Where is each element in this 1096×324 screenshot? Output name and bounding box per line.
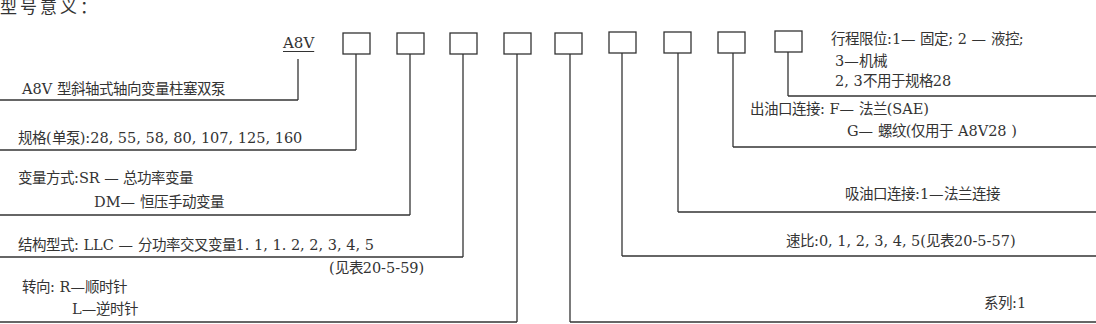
label-structure-ref: (见表20-5-59) xyxy=(329,259,424,277)
connector-lines xyxy=(0,0,1096,324)
code-box-6 xyxy=(609,32,636,53)
label-control-dm: DM— 恒压手动变量 xyxy=(94,193,224,211)
label-outlet-g: G— 螺纹(仅用于 A8V28 ) xyxy=(847,122,1017,140)
label-control-sr: 变量方式:SR — 总功率变量 xyxy=(18,169,193,187)
label-rotation-r: 转向: R—顺时针 xyxy=(22,278,127,296)
code-box-9 xyxy=(775,31,802,52)
code-box-4 xyxy=(504,33,531,54)
label-pump-type: A8V 型斜轴式轴向变量柱塞双泵 xyxy=(22,80,225,98)
label-stroke-limit-3: 3—机械 xyxy=(835,52,887,70)
code-box-8 xyxy=(718,32,745,53)
code-box-5 xyxy=(555,33,582,54)
label-series: 系列:1 xyxy=(984,294,1026,312)
label-rotation-l: L—逆时针 xyxy=(72,300,138,318)
code-box-2 xyxy=(397,33,424,54)
label-size: 规格(单泵):28, 55, 58, 80, 107, 125, 160 xyxy=(18,129,302,147)
label-stroke-limit-note: 2, 3不用于规格28 xyxy=(835,72,951,90)
label-speed-ratio: 速比:0, 1, 2, 3, 4, 5(见表20-5-57) xyxy=(786,232,1016,250)
label-outlet-f: 出油口连接: F— 法兰(SAE) xyxy=(750,100,929,118)
code-box-1 xyxy=(343,33,370,54)
label-inlet: 吸油口连接:1—法兰连接 xyxy=(845,185,1000,203)
label-structure: 结构型式: LLC — 分功率交叉变量1. 1, 1. 2, 2, 3, 4, … xyxy=(18,236,374,254)
code-box-3 xyxy=(450,33,477,54)
label-stroke-limit: 行程限位:1— 固定; 2 — 液控; xyxy=(831,30,1024,48)
code-box-7 xyxy=(664,32,691,53)
